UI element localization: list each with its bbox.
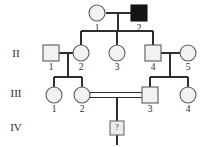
individual-III-1-label: 1 [52,104,57,114]
individual-II-4-symbol[interactable] [145,45,161,61]
individual-I-2-symbol[interactable] [131,5,147,21]
individual-III-2-label: 2 [80,104,85,114]
generation-II-group: 1 2 3 4 5 [43,45,196,72]
individual-III-2-symbol[interactable] [74,87,90,103]
individual-I-1-symbol[interactable] [89,5,105,21]
pedigree-chart: II III IV 1 2 1 2 3 4 5 1 [0,0,207,147]
individual-III-4-label: 4 [186,104,191,114]
individual-I-1-label: 1 [95,23,100,33]
individual-III-3-label: 3 [148,104,153,114]
generation-III-group: 1 2 3 4 [46,87,196,114]
generation-label-II: II [12,47,20,59]
individual-III-4-symbol[interactable] [180,87,196,103]
individual-IV-1-question-mark: ? [115,122,119,132]
individual-II-3-symbol[interactable] [109,45,125,61]
individual-III-3-symbol[interactable] [142,87,158,103]
individual-II-4-label: 4 [151,62,156,72]
individual-II-5-symbol[interactable] [180,45,196,61]
individual-II-3-label: 3 [115,62,120,72]
individual-I-2-label: 2 [137,23,142,33]
generation-IV-group: ? [110,121,124,135]
individual-II-1-symbol[interactable] [43,45,59,61]
individual-II-5-label: 5 [186,62,191,72]
individual-III-1-symbol[interactable] [46,87,62,103]
individual-II-2-symbol[interactable] [73,45,89,61]
individual-II-1-label: 1 [49,62,54,72]
individual-II-2-label: 2 [79,62,84,72]
generation-label-IV: IV [10,121,22,133]
generation-label-III: III [11,87,22,99]
generation-labels: II III IV [10,47,22,133]
pedigree-diagram: II III IV 1 2 1 2 3 4 5 1 [0,0,207,147]
